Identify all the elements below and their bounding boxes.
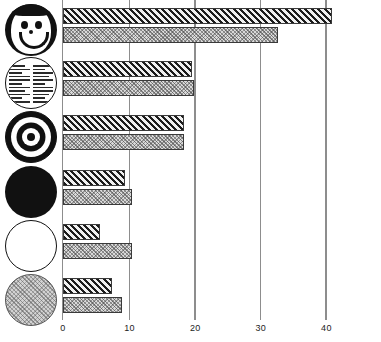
x-tick-10 — [129, 312, 130, 320]
bar-hatched-printed-text-circle — [63, 61, 192, 77]
bar-hatched-gray-stippled-circle — [63, 278, 112, 294]
y-axis-line — [62, 0, 63, 312]
bar-hatched-white-outline-circle — [63, 224, 100, 240]
x-axis: 0 10 20 30 40 — [63, 312, 333, 342]
printed-text-icon — [5, 57, 57, 109]
bar-stippled-gray-stippled-circle — [63, 297, 122, 313]
x-tick-20 — [194, 312, 195, 320]
gridline-40 — [325, 0, 326, 312]
x-tick-label-30: 30 — [255, 323, 266, 333]
gridline-30 — [260, 0, 261, 312]
plot-area — [63, 0, 333, 312]
x-tick-label-0: 0 — [60, 323, 65, 333]
bar-stippled-solid-black-circle — [63, 189, 132, 205]
bar-hatched-solid-black-circle — [63, 170, 125, 186]
bar-hatched-bullseye-target-circle — [63, 115, 184, 131]
gridline-20 — [194, 0, 195, 312]
bar-stippled-printed-text-circle — [63, 80, 194, 96]
bar-hatched-smiley-face-circle — [63, 8, 332, 24]
solid-black-circle-icon — [5, 166, 57, 218]
smiley-face-icon — [5, 4, 57, 56]
category-icon-column — [0, 0, 60, 342]
gray-circle-icon — [5, 274, 57, 326]
x-tick-label-40: 40 — [321, 323, 332, 333]
x-tick-40 — [325, 312, 326, 320]
x-tick-30 — [260, 312, 261, 320]
bar-stippled-white-outline-circle — [63, 243, 132, 259]
bullseye-target-icon — [5, 111, 57, 163]
white-circle-icon — [5, 220, 57, 272]
x-tick-label-10: 10 — [124, 323, 135, 333]
x-tick-label-20: 20 — [190, 323, 201, 333]
gridline-10 — [129, 0, 130, 312]
bar-stippled-bullseye-target-circle — [63, 134, 184, 150]
bar-chart: 0 10 20 30 40 — [0, 0, 381, 342]
x-tick-0 — [62, 312, 63, 320]
bar-stippled-smiley-face-circle — [63, 27, 278, 43]
